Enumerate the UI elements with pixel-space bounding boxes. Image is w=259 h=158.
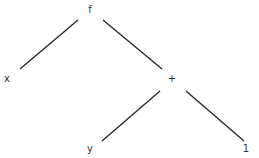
node-y: y	[87, 143, 93, 154]
edge-plus-y	[102, 91, 160, 141]
edge-plus-one	[186, 91, 244, 141]
edge-f-x	[20, 20, 78, 69]
node-one: 1	[243, 143, 249, 154]
node-f: f	[88, 4, 92, 15]
expression-tree-diagram: f x + y 1	[0, 0, 259, 158]
node-x: x	[4, 73, 10, 84]
node-plus: +	[168, 73, 176, 84]
edge-f-plus	[103, 20, 162, 69]
